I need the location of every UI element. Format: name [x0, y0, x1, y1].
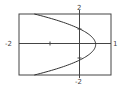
parabola-curve	[34, 14, 95, 75]
x-left-label: -2	[5, 40, 12, 48]
y-top-label: 2	[77, 4, 81, 12]
x-right-label: 1	[113, 40, 117, 48]
plot: 2 -2 -2 1	[0, 0, 119, 90]
y-bottom-label: -2	[75, 78, 82, 86]
